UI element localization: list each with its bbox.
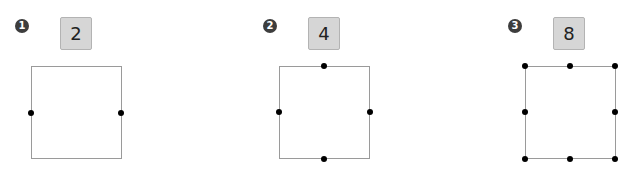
dot: [567, 156, 573, 162]
dot: [612, 63, 618, 69]
dot: [522, 63, 528, 69]
dot: [276, 109, 282, 115]
dot: [522, 109, 528, 115]
panel-3: 3 8: [0, 0, 210, 180]
count-box-2: 4: [308, 17, 340, 50]
count-box-3: 8: [553, 17, 585, 50]
dot: [612, 109, 618, 115]
step-marker-3: 3: [508, 19, 522, 33]
square-3: [525, 66, 616, 159]
dot: [612, 156, 618, 162]
step-marker-2: 2: [263, 19, 277, 33]
dot: [367, 109, 373, 115]
dot: [321, 63, 327, 69]
square-2: [279, 66, 370, 159]
dot: [321, 156, 327, 162]
dot: [567, 63, 573, 69]
dot: [522, 156, 528, 162]
